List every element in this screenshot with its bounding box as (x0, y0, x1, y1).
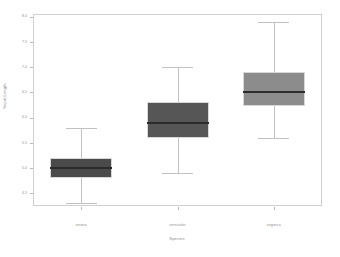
whisker-cap-lower (162, 173, 193, 174)
whisker-cap-lower (258, 138, 289, 139)
x-tick-label-setosa: setosa (76, 223, 87, 227)
boxplot-figure: Sepal.Length Species 4.55.05.56.06.57.07… (0, 0, 340, 257)
whisker-cap-upper (258, 22, 289, 23)
x-tick-mark (274, 207, 275, 210)
y-tick-label: 6.5 (22, 90, 27, 94)
whisker-cap-upper (162, 67, 193, 68)
iqr-box (147, 102, 209, 137)
y-tick-label: 4.5 (22, 191, 27, 195)
whisker-lower (178, 138, 179, 173)
x-tick-mark (81, 207, 82, 210)
x-axis-title: Species (169, 236, 184, 241)
whisker-upper (178, 67, 179, 102)
whisker-upper (274, 22, 275, 73)
median-line (147, 122, 209, 124)
whisker-upper (81, 128, 82, 158)
y-tick-label: 7.0 (22, 65, 27, 69)
y-tick-label: 6.0 (22, 115, 27, 119)
whisker-cap-upper (66, 128, 97, 129)
median-line (243, 91, 305, 93)
y-axis-title: Sepal.Length (2, 83, 7, 108)
y-tick-label: 5.0 (22, 166, 27, 170)
x-tick-mark (178, 207, 179, 210)
whisker-lower (274, 106, 275, 138)
x-tick-label-virginica: virginica (267, 223, 281, 227)
x-tick-label-versicolor: versicolor (169, 223, 185, 227)
iqr-box (243, 72, 305, 106)
median-line (50, 167, 112, 169)
y-tick-label: 8.0 (22, 14, 27, 18)
y-tick-label: 7.5 (22, 40, 27, 44)
y-tick-label: 5.5 (22, 141, 27, 145)
whisker-cap-lower (66, 203, 97, 204)
whisker-lower (81, 178, 82, 203)
